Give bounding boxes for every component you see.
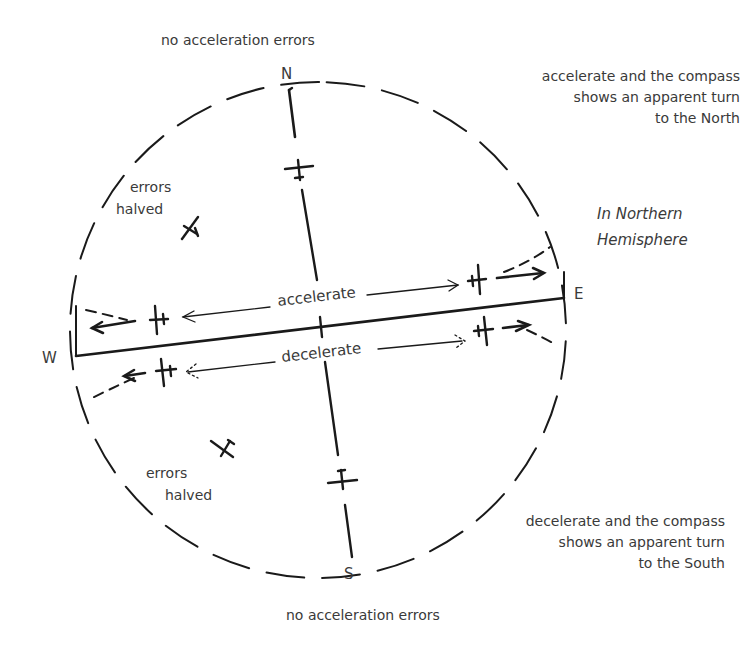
errors-halved-southwest: errors halved xyxy=(146,465,212,504)
aircraft-southwest-icon xyxy=(211,440,234,457)
top-label-no-errors: no acceleration errors xyxy=(161,32,315,49)
aircraft-west-decelerate-icon xyxy=(156,359,176,386)
compass-error-diagram: accelerate decelerate N S E W no acceler… xyxy=(0,0,741,649)
apparent-turn-arrow-east-north xyxy=(497,247,550,279)
aircraft-north-icon xyxy=(285,160,313,180)
errors-halved-sw-line-2: halved xyxy=(165,487,212,504)
cardinal-west: W xyxy=(42,350,57,367)
cardinal-east: E xyxy=(574,286,583,303)
hemisphere-note: In Northern Hemisphere xyxy=(597,206,688,249)
aircraft-east-accelerate-icon xyxy=(468,265,486,294)
decelerate-label: decelerate xyxy=(280,339,362,366)
northeast-note: accelerate and the compass shows an appa… xyxy=(542,68,740,127)
northeast-note-line-2: shows an apparent turn xyxy=(542,89,740,106)
southeast-note-line-1: decelerate and the compass xyxy=(526,513,725,530)
northeast-note-line-3: to the North xyxy=(542,110,740,127)
cardinal-south: S xyxy=(344,566,354,583)
errors-halved-sw-line-1: errors xyxy=(146,465,212,482)
apparent-turn-arrow-west-south xyxy=(88,370,145,400)
hemisphere-note-line-2: Hemisphere xyxy=(597,232,688,249)
accelerate-label: accelerate xyxy=(276,283,356,310)
apparent-turn-arrow-east-south xyxy=(503,321,553,343)
apparent-turn-arrow-west-north xyxy=(86,310,135,333)
compass-circle xyxy=(61,73,574,586)
southeast-note: decelerate and the compass shows an appa… xyxy=(526,513,725,572)
northeast-note-line-1: accelerate and the compass xyxy=(542,68,740,85)
cardinal-north: N xyxy=(281,66,292,83)
bottom-label-no-errors: no acceleration errors xyxy=(286,607,440,624)
errors-halved-northwest: errors halved xyxy=(128,179,171,218)
aircraft-west-accelerate-icon xyxy=(150,306,168,334)
southeast-note-line-2: shows an apparent turn xyxy=(526,534,725,551)
errors-halved-nw-line-1: errors xyxy=(130,179,171,196)
aircraft-east-decelerate-icon xyxy=(474,317,493,345)
aircraft-south-icon xyxy=(328,470,357,489)
errors-halved-nw-line-2: halved xyxy=(116,201,171,218)
hemisphere-note-line-1: In Northern xyxy=(597,206,688,223)
southeast-note-line-3: to the South xyxy=(526,555,725,572)
aircraft-northwest-icon xyxy=(182,217,198,239)
